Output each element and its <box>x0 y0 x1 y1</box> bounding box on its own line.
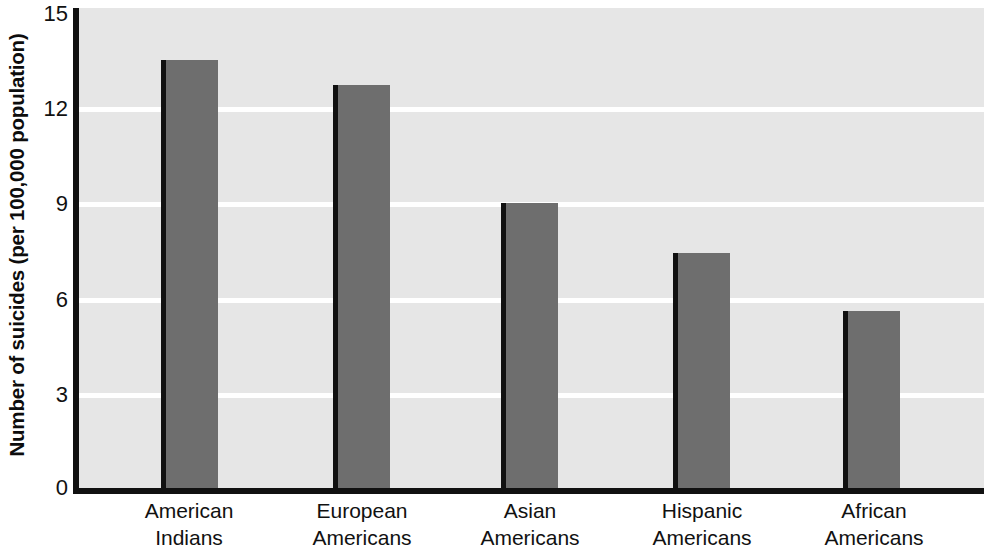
y-tick-label-3: 3 <box>22 384 68 406</box>
x-label-line-1: European <box>277 497 447 524</box>
x-label-line-2: Americans <box>619 524 785 551</box>
x-label-asian-americans: Asian Americans <box>449 497 611 551</box>
x-axis-category-labels: American Indians European Americans Asia… <box>79 497 984 553</box>
x-label-line-2: Indians <box>109 524 269 551</box>
x-label-line-1: American <box>109 497 269 524</box>
x-label-line-1: Hispanic <box>619 497 785 524</box>
y-tick-label-15: 15 <box>22 3 68 25</box>
x-label-line-1: African <box>791 497 957 524</box>
plot-area <box>79 8 984 488</box>
y-tick-label-9: 9 <box>22 193 68 215</box>
y-axis-line <box>73 8 79 494</box>
bar-asian-americans <box>501 203 558 488</box>
x-label-european-americans: European Americans <box>277 497 447 551</box>
y-tick-label-12: 12 <box>22 98 68 120</box>
y-axis-tick-labels: 15 12 9 6 3 0 <box>14 0 68 553</box>
y-tick-label-6: 6 <box>22 289 68 311</box>
bar-hispanic-americans <box>673 253 730 488</box>
bar-american-indians <box>161 60 218 488</box>
x-label-line-2: Americans <box>449 524 611 551</box>
x-label-line-1: Asian <box>449 497 611 524</box>
x-label-hispanic-americans: Hispanic Americans <box>619 497 785 551</box>
x-label-american-indians: American Indians <box>109 497 269 551</box>
x-label-line-2: Americans <box>791 524 957 551</box>
bar-african-americans <box>843 311 900 488</box>
x-axis-line <box>73 488 984 494</box>
bar-chart-figure: Number of suicides (per 100,000 populati… <box>0 0 984 553</box>
y-tick-label-0: 0 <box>22 477 68 499</box>
x-label-african-americans: African Americans <box>791 497 957 551</box>
x-label-line-2: Americans <box>277 524 447 551</box>
bar-european-americans <box>333 85 390 488</box>
